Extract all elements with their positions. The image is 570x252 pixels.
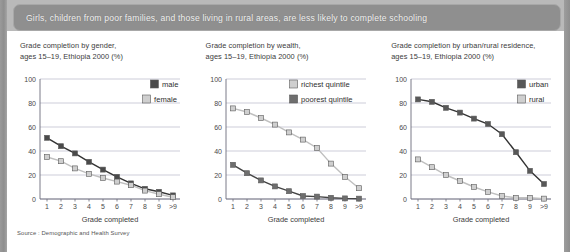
data-point-marker	[115, 179, 120, 184]
data-point-marker	[272, 122, 277, 127]
x-axis-label: Grade completed	[453, 215, 510, 224]
legend-label: urban	[529, 80, 548, 89]
data-point-marker	[444, 173, 449, 178]
data-point-marker	[514, 195, 519, 200]
right-page-edge	[564, 0, 570, 252]
x-tick-label: 6	[486, 203, 490, 210]
data-point-marker	[416, 157, 421, 162]
x-tick-label: 1	[45, 203, 49, 210]
legend-swatch	[518, 95, 526, 103]
series-line	[47, 138, 173, 196]
data-point-marker	[472, 116, 477, 121]
data-point-marker	[286, 130, 291, 135]
x-tick-label: 7	[500, 203, 504, 210]
data-point-marker	[45, 155, 50, 160]
y-tick-label: 100	[210, 76, 222, 83]
x-tick-label: 8	[514, 203, 518, 210]
data-point-marker	[514, 150, 519, 155]
data-point-marker	[356, 196, 361, 201]
x-tick-label: 4	[87, 203, 91, 210]
data-point-marker	[244, 110, 249, 115]
figure-sheet: Grade completion by gender, ages 15–19, …	[7, 31, 564, 252]
data-point-marker	[314, 194, 319, 199]
data-point-marker	[430, 165, 435, 170]
x-tick-label: 2	[430, 203, 434, 210]
y-tick-label: 100	[24, 76, 36, 83]
data-point-marker	[258, 178, 263, 183]
legend-swatch	[150, 80, 158, 88]
data-point-marker	[542, 196, 547, 201]
data-point-marker	[171, 195, 176, 200]
y-tick-label: 60	[399, 124, 407, 131]
x-tick-label: 7	[129, 203, 133, 210]
data-point-marker	[356, 186, 361, 191]
data-point-marker	[59, 144, 64, 149]
y-tick-label: 20	[28, 172, 36, 179]
data-point-marker	[129, 183, 134, 188]
data-point-marker	[87, 159, 92, 164]
data-point-marker	[528, 168, 533, 173]
x-axis-label: Grade completed	[82, 215, 139, 224]
data-point-marker	[115, 174, 120, 179]
x-tick-label: 9	[157, 203, 161, 210]
y-tick-label: 60	[28, 124, 36, 131]
chart-title-wealth: Grade completion by wealth, ages 15–19, …	[206, 41, 309, 62]
data-point-marker	[59, 159, 64, 164]
data-point-marker	[286, 189, 291, 194]
data-point-marker	[45, 135, 50, 140]
chart-panel-wealth: Grade completion by wealth, ages 15–19, …	[193, 31, 379, 227]
chart-panel-gender: Grade completion by gender, ages 15–19, …	[7, 31, 193, 227]
y-tick-label: 80	[399, 100, 407, 107]
y-tick-label: 0	[32, 196, 36, 203]
y-tick-label: 40	[214, 148, 222, 155]
data-point-marker	[143, 188, 148, 193]
x-tick-label: 9	[528, 203, 532, 210]
x-tick-label: 3	[259, 203, 263, 210]
chart-svg: 020406080100123456789>9Grade completedur…	[391, 73, 555, 225]
data-point-marker	[416, 97, 421, 102]
y-tick-label: 0	[218, 196, 222, 203]
y-tick-label: 60	[214, 124, 222, 131]
y-tick-label: 80	[214, 100, 222, 107]
y-tick-label: 80	[28, 100, 36, 107]
y-tick-label: 20	[399, 172, 407, 179]
legend-label: male	[162, 80, 178, 89]
x-tick-label: 5	[101, 203, 105, 210]
data-point-marker	[342, 174, 347, 179]
chart-title-residence: Grade completion by urban/rural residenc…	[391, 41, 535, 62]
data-point-marker	[542, 182, 547, 187]
data-point-marker	[528, 195, 533, 200]
x-tick-label: 3	[73, 203, 77, 210]
data-point-marker	[258, 116, 263, 121]
figure-banner: Girls, children from poor families, and …	[13, 4, 561, 31]
x-tick-label: 6	[301, 203, 305, 210]
data-point-marker	[230, 162, 235, 167]
chart-panel-residence: Grade completion by urban/rural residenc…	[378, 31, 564, 227]
x-tick-label: 5	[472, 203, 476, 210]
data-point-marker	[486, 189, 491, 194]
legend-label: rural	[529, 95, 545, 104]
x-tick-label: 7	[315, 203, 319, 210]
data-point-marker	[244, 171, 249, 176]
figure-banner-title: Girls, children from poor families, and …	[14, 13, 427, 23]
x-tick-label: 8	[143, 203, 147, 210]
data-point-marker	[500, 194, 505, 199]
x-tick-label: >9	[540, 203, 548, 210]
legend-label: female	[154, 95, 177, 104]
series-line	[233, 165, 359, 199]
data-point-marker	[458, 179, 463, 184]
data-point-marker	[328, 161, 333, 166]
data-point-marker	[486, 122, 491, 127]
legend-swatch	[289, 80, 297, 88]
data-point-marker	[342, 196, 347, 201]
legend-swatch	[289, 95, 297, 103]
x-axis-label: Grade completed	[267, 215, 324, 224]
y-tick-label: 40	[399, 148, 407, 155]
plot-area-residence: 020406080100123456789>9Grade completedur…	[391, 73, 555, 225]
x-tick-label: 1	[231, 203, 235, 210]
x-tick-label: 1	[416, 203, 420, 210]
x-tick-label: 8	[329, 203, 333, 210]
x-tick-label: 4	[458, 203, 462, 210]
y-tick-label: 100	[396, 76, 408, 83]
x-tick-label: 9	[343, 203, 347, 210]
